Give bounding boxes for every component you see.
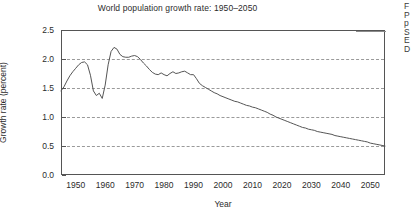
chart-title: World population growth rate: 1950–2050 bbox=[0, 3, 355, 13]
y-axis-tick-label: 0.0 bbox=[42, 170, 54, 180]
x-axis-tick-label: 2000 bbox=[214, 180, 233, 190]
side-text-line: S bbox=[404, 28, 418, 37]
y-axis-title: Growth rate (percent) bbox=[0, 30, 10, 175]
side-text-line: p bbox=[404, 19, 418, 28]
y-axis-tick-label: 0.5 bbox=[42, 141, 54, 151]
plot-area: 0.00.51.01.52.02.5 195019601970198019902… bbox=[61, 30, 385, 175]
y-axis-tick-label: 2.5 bbox=[42, 25, 54, 35]
x-axis-tick-label: 1950 bbox=[66, 180, 85, 190]
x-axis-tick-label: 2010 bbox=[243, 180, 262, 190]
y-axis-tick-label: 1.0 bbox=[42, 112, 54, 122]
x-axis-tick-label: 2020 bbox=[272, 180, 291, 190]
x-axis-tick-label: 1980 bbox=[155, 180, 174, 190]
chart-figure: World population growth rate: 1950–2050 … bbox=[0, 0, 418, 223]
x-axis-tick-label: 1960 bbox=[96, 180, 115, 190]
y-axis-tick-label: 1.5 bbox=[42, 83, 54, 93]
cut-off-side-text: FPpSED bbox=[404, 2, 418, 54]
x-axis-tick-label: 2030 bbox=[302, 180, 321, 190]
side-text-line: P bbox=[404, 11, 418, 20]
side-text-line: E bbox=[404, 36, 418, 45]
y-axis-tick bbox=[62, 175, 66, 176]
x-axis-tick-label: 1970 bbox=[125, 180, 144, 190]
x-axis-tick-label: 2040 bbox=[331, 180, 350, 190]
x-axis-tick-label: 1990 bbox=[184, 180, 203, 190]
side-text-line: F bbox=[404, 2, 418, 11]
x-axis-tick-label: 2050 bbox=[361, 180, 380, 190]
x-axis-title: Year bbox=[61, 199, 385, 209]
y-axis-tick-label: 2.0 bbox=[42, 54, 54, 64]
side-text-line: D bbox=[404, 45, 418, 54]
data-series-line bbox=[61, 30, 385, 175]
page-rule-fragment bbox=[356, 31, 386, 32]
